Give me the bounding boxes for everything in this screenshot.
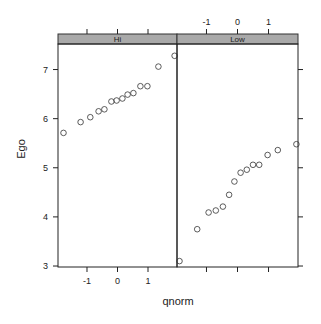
data-point (244, 167, 250, 173)
data-point (61, 130, 67, 136)
data-point (125, 92, 131, 98)
data-point (213, 208, 219, 214)
data-point (194, 226, 200, 232)
y-tick-label: 4 (43, 212, 48, 222)
data-point (138, 83, 144, 89)
data-point (88, 114, 94, 120)
data-point (78, 119, 84, 125)
y-tick-label: 6 (43, 114, 48, 124)
data-point (102, 107, 108, 113)
data-point (206, 210, 212, 216)
panel-border (177, 44, 298, 267)
data-point (131, 90, 137, 96)
x-tick-label-bottom: 0 (115, 276, 120, 286)
strip-label-hi: Hi (114, 35, 122, 44)
data-point (265, 152, 271, 158)
data-point (96, 109, 102, 115)
data-point (232, 179, 238, 185)
data-point (238, 170, 244, 176)
axes-group: 34567-1-10011 (43, 17, 303, 286)
x-tick-label-top: 1 (266, 17, 271, 27)
data-point (145, 83, 151, 89)
data-point (114, 98, 120, 104)
x-axis-title: qnorm (162, 295, 193, 307)
data-point (177, 258, 183, 264)
data-point (250, 162, 256, 168)
data-point (220, 204, 226, 210)
data-point (226, 192, 232, 198)
strip-label-low: Low (230, 35, 245, 44)
y-axis-title: Ego (15, 139, 27, 159)
x-tick-label-top: -1 (202, 17, 210, 27)
data-point (156, 64, 162, 70)
qq-plot-chart: HiLow 34567-1-10011 qnorm Ego (0, 0, 321, 324)
panel-hi: Hi (58, 34, 177, 267)
x-tick-label-bottom: 1 (146, 276, 151, 286)
data-point (275, 147, 281, 153)
x-tick-label-bottom: -1 (83, 276, 91, 286)
panel-low: Low (177, 34, 300, 267)
data-point (109, 99, 115, 105)
data-point (256, 162, 262, 168)
y-tick-label: 5 (43, 163, 48, 173)
x-tick-label-top: 0 (235, 17, 240, 27)
y-tick-label: 7 (43, 65, 48, 75)
y-tick-label: 3 (43, 261, 48, 271)
panel-border (58, 44, 177, 267)
panels-group: HiLow (58, 34, 299, 267)
data-point (120, 96, 126, 102)
